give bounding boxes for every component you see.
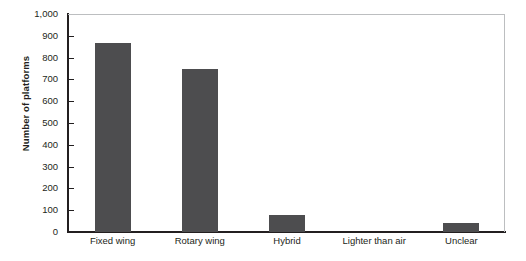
bar-chart-figure: Number of platforms 01002003004005006007… [0,0,526,261]
y-axis-tick-label: 400 [42,140,58,150]
y-axis-tick-label: 100 [42,205,58,215]
x-axis-category-label: Hybrid [273,236,300,246]
bar [95,43,131,232]
y-axis-tick-mark [69,58,74,59]
y-axis-tick-mark [69,167,74,168]
y-axis-tick-mark [69,188,74,189]
y-axis-tick-label: 900 [42,31,58,41]
y-axis-tick-mark [69,79,74,80]
x-axis-category-labels: Fixed wingRotary wingHybridLighter than … [69,236,505,256]
x-axis-category-label: Lighter than air [343,236,406,246]
y-axis-tick-label: 1,000 [34,9,58,19]
y-axis-tick-label: 500 [42,118,58,128]
y-axis-tick-label: 0 [53,227,58,237]
x-axis-category-label: Fixed wing [90,236,135,246]
y-axis-tick-mark [69,123,74,124]
y-axis-tick-label: 800 [42,53,58,63]
y-axis-tick-mark [69,36,74,37]
y-axis-tick-label: 300 [42,162,58,172]
y-axis-tick-mark [69,210,74,211]
bar [269,215,305,232]
bar [443,223,479,232]
x-axis-category-label: Rotary wing [175,236,225,246]
y-axis-tick-mark [69,101,74,102]
y-axis-tick-mark [69,145,74,146]
y-axis-tick-label: 600 [42,96,58,106]
x-axis-category-label: Unclear [445,236,478,246]
y-axis-tick-label: 700 [42,75,58,85]
bars-layer [69,14,505,232]
bar [182,69,218,233]
y-axis-tick-label: 200 [42,184,58,194]
y-axis-tick-labels: 01002003004005006007008009001,000 [16,14,63,232]
